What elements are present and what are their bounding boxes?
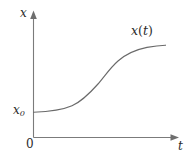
- sigmoid-curve: [34, 45, 166, 112]
- origin-label: 0: [26, 138, 34, 150]
- initial-value-symbol: x: [13, 103, 20, 117]
- y-axis-label: x: [20, 7, 27, 19]
- initial-value-subscript: 0: [20, 108, 25, 118]
- plot-canvas: [0, 0, 190, 154]
- curve-label-close-paren: ): [148, 23, 153, 38]
- curve-label-func: x: [131, 23, 138, 38]
- y-axis-arrowhead: [30, 11, 37, 20]
- initial-value-label: x0: [13, 104, 25, 117]
- x-axis-label: t: [178, 140, 183, 152]
- curve-label: x(t): [131, 25, 153, 38]
- figure-container: x t x0 0 x(t): [0, 0, 190, 154]
